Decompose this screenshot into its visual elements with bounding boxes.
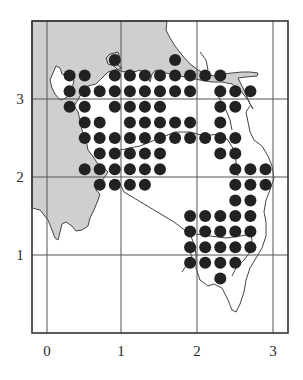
occurrence-dot — [229, 257, 241, 269]
occurrence-dot — [244, 179, 256, 191]
occurrence-dot — [214, 116, 226, 128]
occurrence-dot — [94, 85, 106, 97]
occurrence-dot — [260, 163, 272, 175]
occurrence-dot — [94, 163, 106, 175]
y-tick-3: 3 — [16, 91, 24, 107]
occurrence-dot — [184, 70, 196, 82]
y-axis-labels: 3 2 1 — [16, 91, 24, 263]
occurrence-dot — [109, 163, 121, 175]
occurrence-dot — [109, 70, 121, 82]
river-line — [200, 52, 208, 70]
occurrence-dot — [214, 148, 226, 160]
shaded-region — [32, 21, 258, 240]
dot-layer — [64, 54, 272, 284]
occurrence-dot — [229, 163, 241, 175]
occurrence-dot — [244, 241, 256, 253]
y-tick-2: 2 — [16, 169, 24, 185]
occurrence-dot — [94, 132, 106, 144]
occurrence-dot — [79, 85, 91, 97]
occurrence-dot — [229, 226, 241, 238]
occurrence-dot — [214, 85, 226, 97]
occurrence-dot — [199, 226, 211, 238]
occurrence-dot — [169, 116, 181, 128]
occurrence-dot — [154, 116, 166, 128]
occurrence-dot — [79, 116, 91, 128]
occurrence-dot — [199, 241, 211, 253]
x-tick-1: 1 — [117, 343, 125, 359]
occurrence-dot — [139, 148, 151, 160]
occurrence-dot — [124, 179, 136, 191]
occurrence-dot — [184, 257, 196, 269]
occurrence-dot — [244, 210, 256, 222]
occurrence-dot — [64, 85, 76, 97]
occurrence-dot — [124, 101, 136, 113]
occurrence-dot — [124, 85, 136, 97]
occurrence-dot — [124, 70, 136, 82]
occurrence-dot — [79, 132, 91, 144]
x-axis-labels: 0 1 2 3 — [43, 343, 277, 359]
occurrence-dot — [184, 85, 196, 97]
occurrence-dot — [229, 148, 241, 160]
occurrence-dot — [229, 85, 241, 97]
occurrence-dot — [139, 163, 151, 175]
occurrence-dot — [244, 85, 256, 97]
occurrence-dot — [139, 70, 151, 82]
occurrence-dot — [154, 70, 166, 82]
occurrence-dot — [109, 148, 121, 160]
occurrence-dot — [244, 194, 256, 206]
occurrence-dot — [169, 85, 181, 97]
occurrence-dot — [154, 101, 166, 113]
occurrence-dot — [109, 85, 121, 97]
x-tick-0: 0 — [43, 343, 51, 359]
occurrence-dot — [139, 116, 151, 128]
occurrence-dot — [94, 116, 106, 128]
occurrence-dot — [229, 194, 241, 206]
x-tick-2: 2 — [193, 343, 201, 359]
occurrence-dot — [214, 210, 226, 222]
occurrence-dot — [229, 210, 241, 222]
occurrence-dot — [199, 257, 211, 269]
occurrence-dot — [169, 70, 181, 82]
occurrence-dot — [64, 101, 76, 113]
occurrence-dot — [214, 70, 226, 82]
occurrence-dot — [169, 54, 181, 66]
occurrence-dot — [79, 70, 91, 82]
occurrence-dot — [244, 163, 256, 175]
x-tick-3: 3 — [269, 343, 277, 359]
occurrence-dot — [79, 163, 91, 175]
occurrence-dot — [109, 132, 121, 144]
occurrence-dot — [229, 101, 241, 113]
occurrence-dot — [109, 54, 121, 66]
occurrence-dot — [184, 210, 196, 222]
occurrence-dot — [154, 148, 166, 160]
occurrence-dot — [64, 70, 76, 82]
occurrence-dot — [184, 226, 196, 238]
occurrence-dot — [124, 116, 136, 128]
occurrence-dot — [214, 226, 226, 238]
occurrence-dot — [139, 132, 151, 144]
occurrence-dot — [199, 70, 211, 82]
occurrence-dot — [199, 210, 211, 222]
occurrence-dot — [109, 179, 121, 191]
occurrence-dot — [154, 163, 166, 175]
occurrence-dot — [169, 132, 181, 144]
dot-distribution-map: 0 1 2 3 3 2 1 — [0, 0, 303, 380]
occurrence-dot — [94, 179, 106, 191]
occurrence-dot — [184, 241, 196, 253]
occurrence-dot — [109, 101, 121, 113]
occurrence-dot — [214, 241, 226, 253]
occurrence-dot — [260, 179, 272, 191]
occurrence-dot — [214, 272, 226, 284]
occurrence-dot — [79, 101, 91, 113]
occurrence-dot — [124, 163, 136, 175]
occurrence-dot — [229, 241, 241, 253]
occurrence-dot — [244, 226, 256, 238]
occurrence-dot — [154, 132, 166, 144]
occurrence-dot — [139, 101, 151, 113]
occurrence-dot — [124, 132, 136, 144]
occurrence-dot — [124, 148, 136, 160]
occurrence-dot — [214, 101, 226, 113]
occurrence-dot — [214, 132, 226, 144]
occurrence-dot — [199, 132, 211, 144]
occurrence-dot — [214, 257, 226, 269]
